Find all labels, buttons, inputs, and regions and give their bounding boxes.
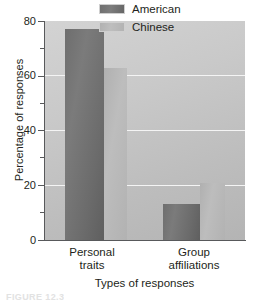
x-axis-title: Types of responses <box>44 277 245 290</box>
legend-swatch-american <box>99 4 125 14</box>
bar-chart-figure: 80 60 40 20 0 Percentage of responses Pe… <box>0 0 261 302</box>
category-label-group-affiliations: Group affiliations <box>152 246 236 272</box>
bar-group-affiliations-chinese <box>200 183 225 240</box>
category-label-personal-traits: Personal traits <box>54 246 130 272</box>
bar-group-affiliations-american <box>163 204 200 240</box>
legend-label-american: American <box>132 3 181 16</box>
y-tick-10 <box>40 212 44 213</box>
y-axis-line <box>44 21 45 241</box>
y-tick-label-80: 80 <box>2 16 36 27</box>
y-axis-title: Percentage of responses <box>13 45 25 195</box>
y-tick-0 <box>38 240 44 241</box>
legend-item-chinese: Chinese <box>99 21 201 39</box>
y-tick-60 <box>38 76 44 77</box>
y-tick-20 <box>38 185 44 186</box>
y-tick-30 <box>40 157 44 158</box>
x-axis-line <box>44 240 246 241</box>
category-label-line2: affiliations <box>152 259 236 272</box>
y-tick-label-0: 0 <box>2 235 36 246</box>
category-label-line2: traits <box>54 259 130 272</box>
category-label-line1: Personal <box>69 246 114 258</box>
legend-label-chinese: Chinese <box>132 21 174 34</box>
bar-personal-traits-chinese <box>104 68 127 240</box>
y-tick-70 <box>40 48 44 49</box>
figure-caption: FIGURE 12.3 <box>6 293 64 302</box>
y-tick-80 <box>38 21 44 22</box>
chart-legend: American Chinese <box>99 3 201 39</box>
y-tick-50 <box>40 103 44 104</box>
bar-personal-traits-american <box>65 29 104 240</box>
category-label-line1: Group <box>178 246 210 258</box>
legend-item-american: American <box>99 3 201 21</box>
y-tick-40 <box>38 130 44 131</box>
plot-area <box>44 21 245 240</box>
legend-swatch-chinese <box>99 22 125 32</box>
